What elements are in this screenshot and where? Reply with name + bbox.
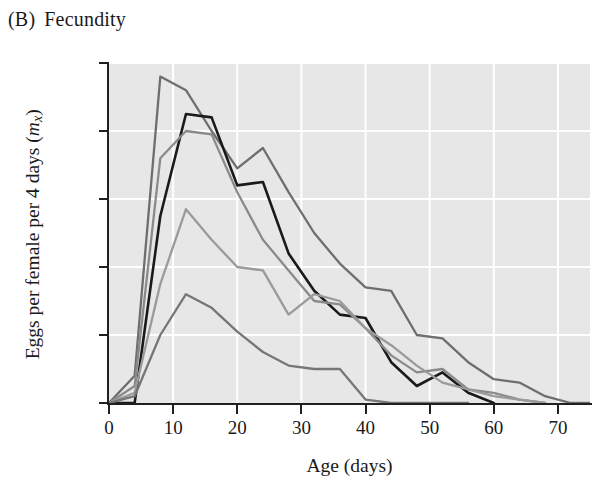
- x-tick-mark: [429, 405, 431, 414]
- data-series-line: [109, 77, 590, 403]
- y-axis-title-close: ): [22, 109, 43, 116]
- y-axis-subscript: x: [29, 116, 45, 122]
- x-tick-label: 20: [217, 418, 257, 437]
- x-tick-mark: [300, 405, 302, 414]
- x-axis-title: Age (days): [109, 455, 590, 477]
- page-title: (B)Fecundity: [8, 8, 126, 31]
- data-series-line: [109, 209, 545, 403]
- y-tick-mark: [99, 334, 107, 336]
- panel-title-text: Fecundity: [44, 8, 126, 30]
- y-tick-mark: [99, 198, 107, 200]
- y-tick-mark: [99, 402, 107, 404]
- x-tick-mark: [557, 405, 559, 414]
- y-axis-symbol: m: [22, 122, 43, 136]
- line-chart: [109, 63, 590, 403]
- data-series-line: [109, 294, 468, 403]
- x-tick-label: 60: [474, 418, 514, 437]
- x-tick-mark: [108, 405, 110, 414]
- data-series-group: [109, 77, 590, 403]
- y-axis-title: Eggs per female per 4 days (mx): [22, 54, 47, 414]
- y-tick-mark: [99, 62, 107, 64]
- x-axis-line: [107, 403, 592, 405]
- x-tick-label: 40: [346, 418, 386, 437]
- y-axis-title-text: Eggs per female per 4 days (: [22, 136, 43, 359]
- fecundity-figure: (B)Fecundity Eggs per female per 4 days …: [0, 0, 603, 495]
- x-tick-mark: [236, 405, 238, 414]
- x-tick-label: 30: [281, 418, 321, 437]
- plot-area: [109, 63, 590, 403]
- y-tick-mark: [99, 130, 107, 132]
- x-tick-mark: [493, 405, 495, 414]
- x-tick-mark: [172, 405, 174, 414]
- x-tick-label: 0: [89, 418, 129, 437]
- x-tick-mark: [365, 405, 367, 414]
- y-axis-line: [107, 62, 109, 405]
- x-tick-label: 70: [538, 418, 578, 437]
- y-tick-mark: [99, 266, 107, 268]
- panel-letter: (B): [8, 8, 35, 30]
- x-tick-label: 50: [410, 418, 450, 437]
- x-tick-label: 10: [153, 418, 193, 437]
- gridlines: [109, 63, 590, 403]
